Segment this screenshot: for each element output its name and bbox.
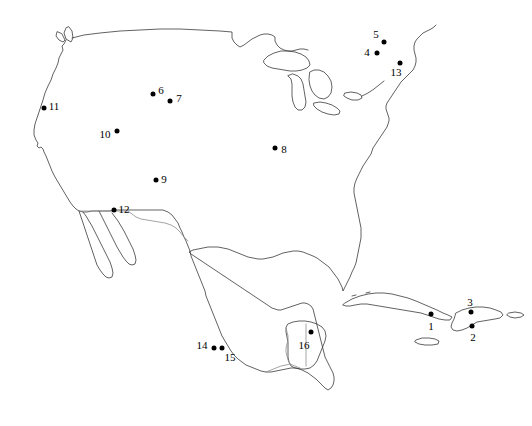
site-label-3: 3: [467, 297, 473, 308]
site-label-10: 10: [100, 129, 111, 140]
site-label-16: 16: [299, 340, 310, 351]
site-label-7: 7: [176, 93, 182, 104]
site-label-4: 4: [364, 47, 370, 58]
site-dot-2: [470, 324, 475, 329]
site-dot-16: [309, 330, 314, 335]
site-label-6: 6: [158, 85, 164, 96]
site-dot-7: [168, 99, 173, 104]
site-label-12: 12: [119, 204, 130, 215]
site-label-9: 9: [161, 174, 167, 185]
site-dot-10: [115, 129, 120, 134]
site-dot-9: [154, 178, 159, 183]
site-label-11: 11: [49, 101, 60, 112]
site-label-1: 1: [428, 321, 434, 332]
site-dot-4: [375, 51, 380, 56]
site-dot-6: [151, 92, 156, 97]
site-label-8: 8: [281, 144, 287, 155]
site-dot-3: [469, 310, 474, 315]
site-label-14: 14: [197, 340, 208, 351]
map-figure: 12345678910111213141516: [0, 0, 532, 426]
site-dot-8: [273, 146, 278, 151]
site-dot-1: [429, 312, 434, 317]
site-label-2: 2: [470, 332, 476, 343]
site-label-5: 5: [373, 29, 379, 40]
site-label-13: 13: [391, 67, 402, 78]
site-dot-12: [112, 208, 117, 213]
site-dot-5: [382, 40, 387, 45]
site-dot-14: [212, 346, 217, 351]
site-points-layer: 12345678910111213141516: [0, 0, 532, 426]
site-dot-11: [42, 106, 47, 111]
site-label-15: 15: [225, 352, 236, 363]
